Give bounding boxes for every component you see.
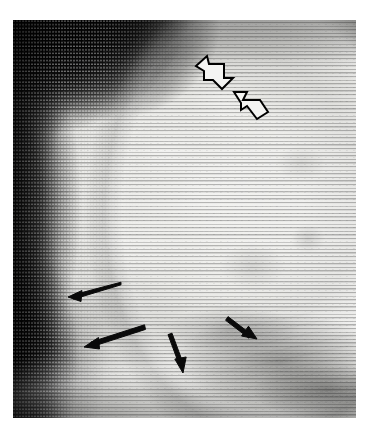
radiograph-image [13,20,356,418]
plate-vignette [13,20,356,418]
figure-root [0,0,366,434]
